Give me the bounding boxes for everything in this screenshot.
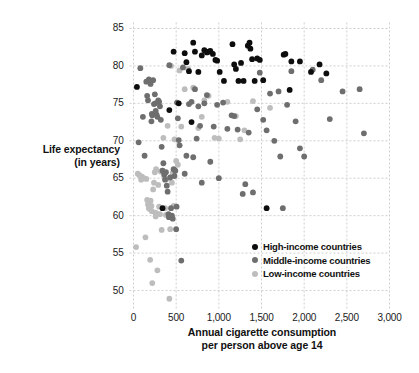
data-point	[254, 106, 260, 112]
data-point	[133, 244, 139, 250]
data-point	[157, 211, 163, 217]
data-point	[210, 51, 216, 57]
data-point	[162, 177, 168, 183]
y-tick-label: 65	[98, 172, 124, 183]
data-point	[264, 205, 270, 211]
data-point	[199, 180, 205, 186]
data-point	[164, 183, 170, 189]
x-tick-label: 3,000	[370, 312, 410, 323]
series-middle-income-countries	[136, 62, 367, 263]
data-point	[216, 175, 222, 181]
data-point	[195, 69, 201, 75]
x-axis-title-line2: per person above age 14	[133, 339, 391, 352]
data-point	[216, 136, 222, 142]
data-point	[178, 258, 184, 264]
data-point	[224, 126, 230, 132]
data-point	[168, 205, 174, 211]
data-point	[182, 86, 188, 92]
data-point	[264, 127, 270, 133]
data-point	[149, 118, 155, 124]
legend: High-income countriesMiddle-income count…	[252, 240, 370, 281]
data-point	[282, 51, 288, 57]
data-point	[250, 98, 256, 104]
data-point	[297, 59, 303, 65]
data-point	[246, 130, 252, 136]
x-tick-label: 2,500	[327, 312, 367, 323]
data-point	[155, 182, 161, 188]
data-point	[173, 226, 179, 232]
data-point	[214, 102, 220, 108]
data-point	[150, 77, 156, 83]
data-point	[189, 99, 195, 105]
data-point	[160, 205, 166, 211]
data-point	[260, 117, 266, 123]
data-point	[204, 92, 210, 98]
data-point	[142, 153, 148, 159]
data-point	[214, 58, 220, 64]
data-point	[357, 86, 363, 92]
data-point	[318, 77, 324, 83]
data-point	[149, 203, 155, 209]
data-point	[288, 59, 294, 65]
x-tick-label: 1,500	[242, 312, 282, 323]
data-point	[166, 296, 172, 302]
data-point	[182, 50, 188, 56]
legend-label: Low-income countries	[263, 268, 360, 279]
data-point	[143, 234, 149, 240]
data-point	[186, 68, 192, 74]
data-point	[160, 160, 166, 166]
data-point	[152, 91, 158, 97]
data-point	[184, 153, 190, 159]
legend-label: High-income countries	[263, 241, 362, 252]
data-point	[190, 40, 196, 46]
data-point	[340, 88, 346, 94]
data-point	[199, 114, 205, 120]
data-point	[184, 59, 190, 65]
data-point	[176, 100, 182, 106]
data-point	[297, 145, 303, 151]
data-point	[182, 171, 188, 177]
data-point	[176, 137, 182, 143]
legend-dot-icon	[252, 257, 258, 263]
y-tick-label: 85	[98, 22, 124, 33]
legend-item: High-income countries	[252, 240, 370, 254]
data-point	[249, 56, 255, 62]
y-tick-label: 60	[98, 210, 124, 221]
data-point	[171, 49, 177, 55]
data-point	[327, 116, 333, 122]
data-point	[150, 187, 156, 193]
data-point	[323, 71, 329, 77]
data-point	[293, 118, 299, 124]
legend-item: Low-income countries	[252, 267, 370, 281]
data-point	[157, 103, 163, 109]
scatter-chart: Life expectancy (in years) Annual cigare…	[0, 0, 419, 373]
data-point	[247, 40, 253, 46]
data-point	[180, 65, 186, 71]
data-point	[252, 78, 258, 84]
data-point	[134, 84, 140, 90]
data-point	[149, 280, 155, 286]
legend-label: Middle-income countries	[263, 255, 370, 266]
data-point	[165, 189, 171, 195]
data-point	[287, 87, 293, 93]
data-point	[238, 60, 244, 66]
x-tick-label: 0	[114, 312, 154, 323]
data-point	[284, 102, 290, 108]
data-point	[163, 169, 169, 175]
data-point	[177, 142, 183, 148]
y-tick-label: 70	[98, 135, 124, 146]
data-point	[201, 100, 207, 106]
data-point	[280, 205, 286, 211]
data-point	[267, 105, 273, 111]
x-tick-label: 500	[156, 312, 196, 323]
data-point	[166, 62, 172, 68]
x-tick-label: 1,000	[199, 312, 239, 323]
data-point	[301, 154, 307, 160]
y-tick-label: 80	[98, 60, 124, 71]
data-point	[240, 191, 246, 197]
data-point	[231, 113, 237, 119]
data-point	[159, 227, 165, 233]
data-point	[277, 154, 283, 160]
data-point	[276, 88, 282, 94]
data-point	[154, 267, 160, 273]
